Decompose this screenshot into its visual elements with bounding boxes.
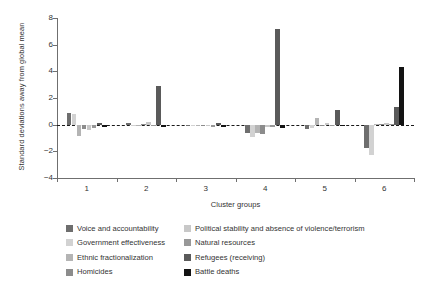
x-tick-label: 3 bbox=[191, 184, 221, 193]
legend-swatch-icon bbox=[66, 269, 73, 276]
x-tick bbox=[57, 178, 58, 182]
bar bbox=[92, 125, 97, 128]
x-tick bbox=[236, 178, 237, 182]
x-tick-label: 1 bbox=[72, 184, 102, 193]
chart-legend: Voice and accountabilityPolitical stabil… bbox=[66, 221, 416, 279]
bar bbox=[250, 125, 255, 138]
bar bbox=[82, 125, 87, 129]
bar bbox=[245, 125, 250, 133]
bar bbox=[102, 125, 107, 127]
y-tick bbox=[53, 125, 57, 126]
bar bbox=[146, 122, 151, 125]
bar bbox=[325, 123, 330, 125]
plot-area: 86420−2−4 123456 Cluster groups bbox=[57, 18, 414, 178]
y-tick-label: 0 bbox=[13, 120, 53, 129]
legend-item: Ethnic fractionalization bbox=[66, 254, 184, 262]
y-tick-label: −4 bbox=[13, 173, 53, 182]
bar bbox=[221, 125, 226, 128]
x-tick-label: 5 bbox=[310, 184, 340, 193]
bar bbox=[131, 125, 136, 126]
legend-swatch-icon bbox=[184, 254, 191, 261]
y-tick-label: −2 bbox=[13, 146, 53, 155]
bar bbox=[136, 125, 141, 126]
y-tick bbox=[53, 18, 57, 19]
y-tick bbox=[53, 71, 57, 72]
bar bbox=[330, 125, 335, 126]
bar bbox=[399, 67, 404, 124]
legend-swatch-icon bbox=[184, 239, 191, 246]
legend-label: Natural resources bbox=[195, 239, 255, 247]
bar bbox=[335, 110, 340, 125]
y-tick bbox=[53, 151, 57, 152]
x-tick bbox=[414, 178, 415, 182]
bar bbox=[141, 124, 146, 125]
y-tick bbox=[53, 98, 57, 99]
x-tick bbox=[355, 178, 356, 182]
bar bbox=[126, 123, 131, 125]
bar bbox=[156, 86, 161, 125]
bar bbox=[216, 123, 221, 125]
legend-label: Government effectiveness bbox=[77, 239, 165, 247]
bar bbox=[67, 113, 72, 125]
bar bbox=[255, 125, 260, 133]
bar bbox=[206, 125, 211, 126]
bar bbox=[280, 125, 285, 128]
bar bbox=[384, 123, 389, 124]
bar bbox=[369, 125, 374, 156]
x-tick-label: 6 bbox=[369, 184, 399, 193]
x-tick bbox=[176, 178, 177, 182]
zero-reference-line bbox=[57, 125, 414, 126]
legend-label: Political stability and absence of viole… bbox=[195, 225, 365, 233]
x-tick-label: 2 bbox=[131, 184, 161, 193]
legend-label: Refugees (receiving) bbox=[195, 254, 265, 262]
bar bbox=[394, 107, 399, 124]
legend-label: Ethnic fractionalization bbox=[77, 254, 153, 262]
chart-figure: Standard deviations away from global mea… bbox=[0, 0, 428, 287]
y-tick bbox=[53, 45, 57, 46]
x-axis-title: Cluster groups bbox=[57, 200, 414, 209]
legend-label: Voice and accountability bbox=[77, 225, 158, 233]
bar bbox=[275, 29, 280, 125]
x-tick bbox=[295, 178, 296, 182]
legend-item: Voice and accountability bbox=[66, 225, 184, 233]
legend-label: Homicides bbox=[77, 268, 112, 276]
y-tick-label: 2 bbox=[13, 93, 53, 102]
bar bbox=[340, 125, 345, 126]
legend-item: Homicides bbox=[66, 268, 184, 276]
x-tick-label: 4 bbox=[250, 184, 280, 193]
bar bbox=[72, 114, 77, 124]
bar bbox=[260, 125, 265, 134]
bar bbox=[320, 125, 325, 127]
bar bbox=[265, 125, 270, 127]
bar bbox=[87, 125, 92, 130]
legend-item: Government effectiveness bbox=[66, 239, 184, 247]
bar bbox=[374, 124, 379, 125]
y-axis-line bbox=[57, 18, 58, 178]
y-tick-label: 4 bbox=[13, 66, 53, 75]
legend-swatch-icon bbox=[66, 239, 73, 246]
legend-swatch-icon bbox=[66, 225, 73, 232]
bar bbox=[97, 123, 102, 125]
legend-item: Natural resources bbox=[184, 239, 416, 247]
legend-item: Battle deaths bbox=[184, 268, 416, 276]
legend-swatch-icon bbox=[184, 225, 191, 232]
bar bbox=[77, 125, 82, 136]
legend-item: Refugees (receiving) bbox=[184, 254, 416, 262]
bar bbox=[161, 125, 166, 127]
bar bbox=[379, 124, 384, 125]
bar bbox=[211, 125, 216, 127]
legend-swatch-icon bbox=[66, 254, 73, 261]
bar bbox=[196, 125, 201, 126]
x-tick bbox=[117, 178, 118, 182]
bar bbox=[191, 125, 196, 126]
legend-item: Political stability and absence of viole… bbox=[184, 225, 416, 233]
y-tick-label: 8 bbox=[13, 13, 53, 22]
legend-swatch-icon bbox=[184, 269, 191, 276]
bar bbox=[315, 118, 320, 125]
bar bbox=[389, 124, 394, 125]
bar bbox=[310, 125, 315, 128]
bar bbox=[364, 125, 369, 148]
y-tick-label: 6 bbox=[13, 40, 53, 49]
legend-label: Battle deaths bbox=[195, 268, 239, 276]
bar bbox=[186, 125, 191, 127]
